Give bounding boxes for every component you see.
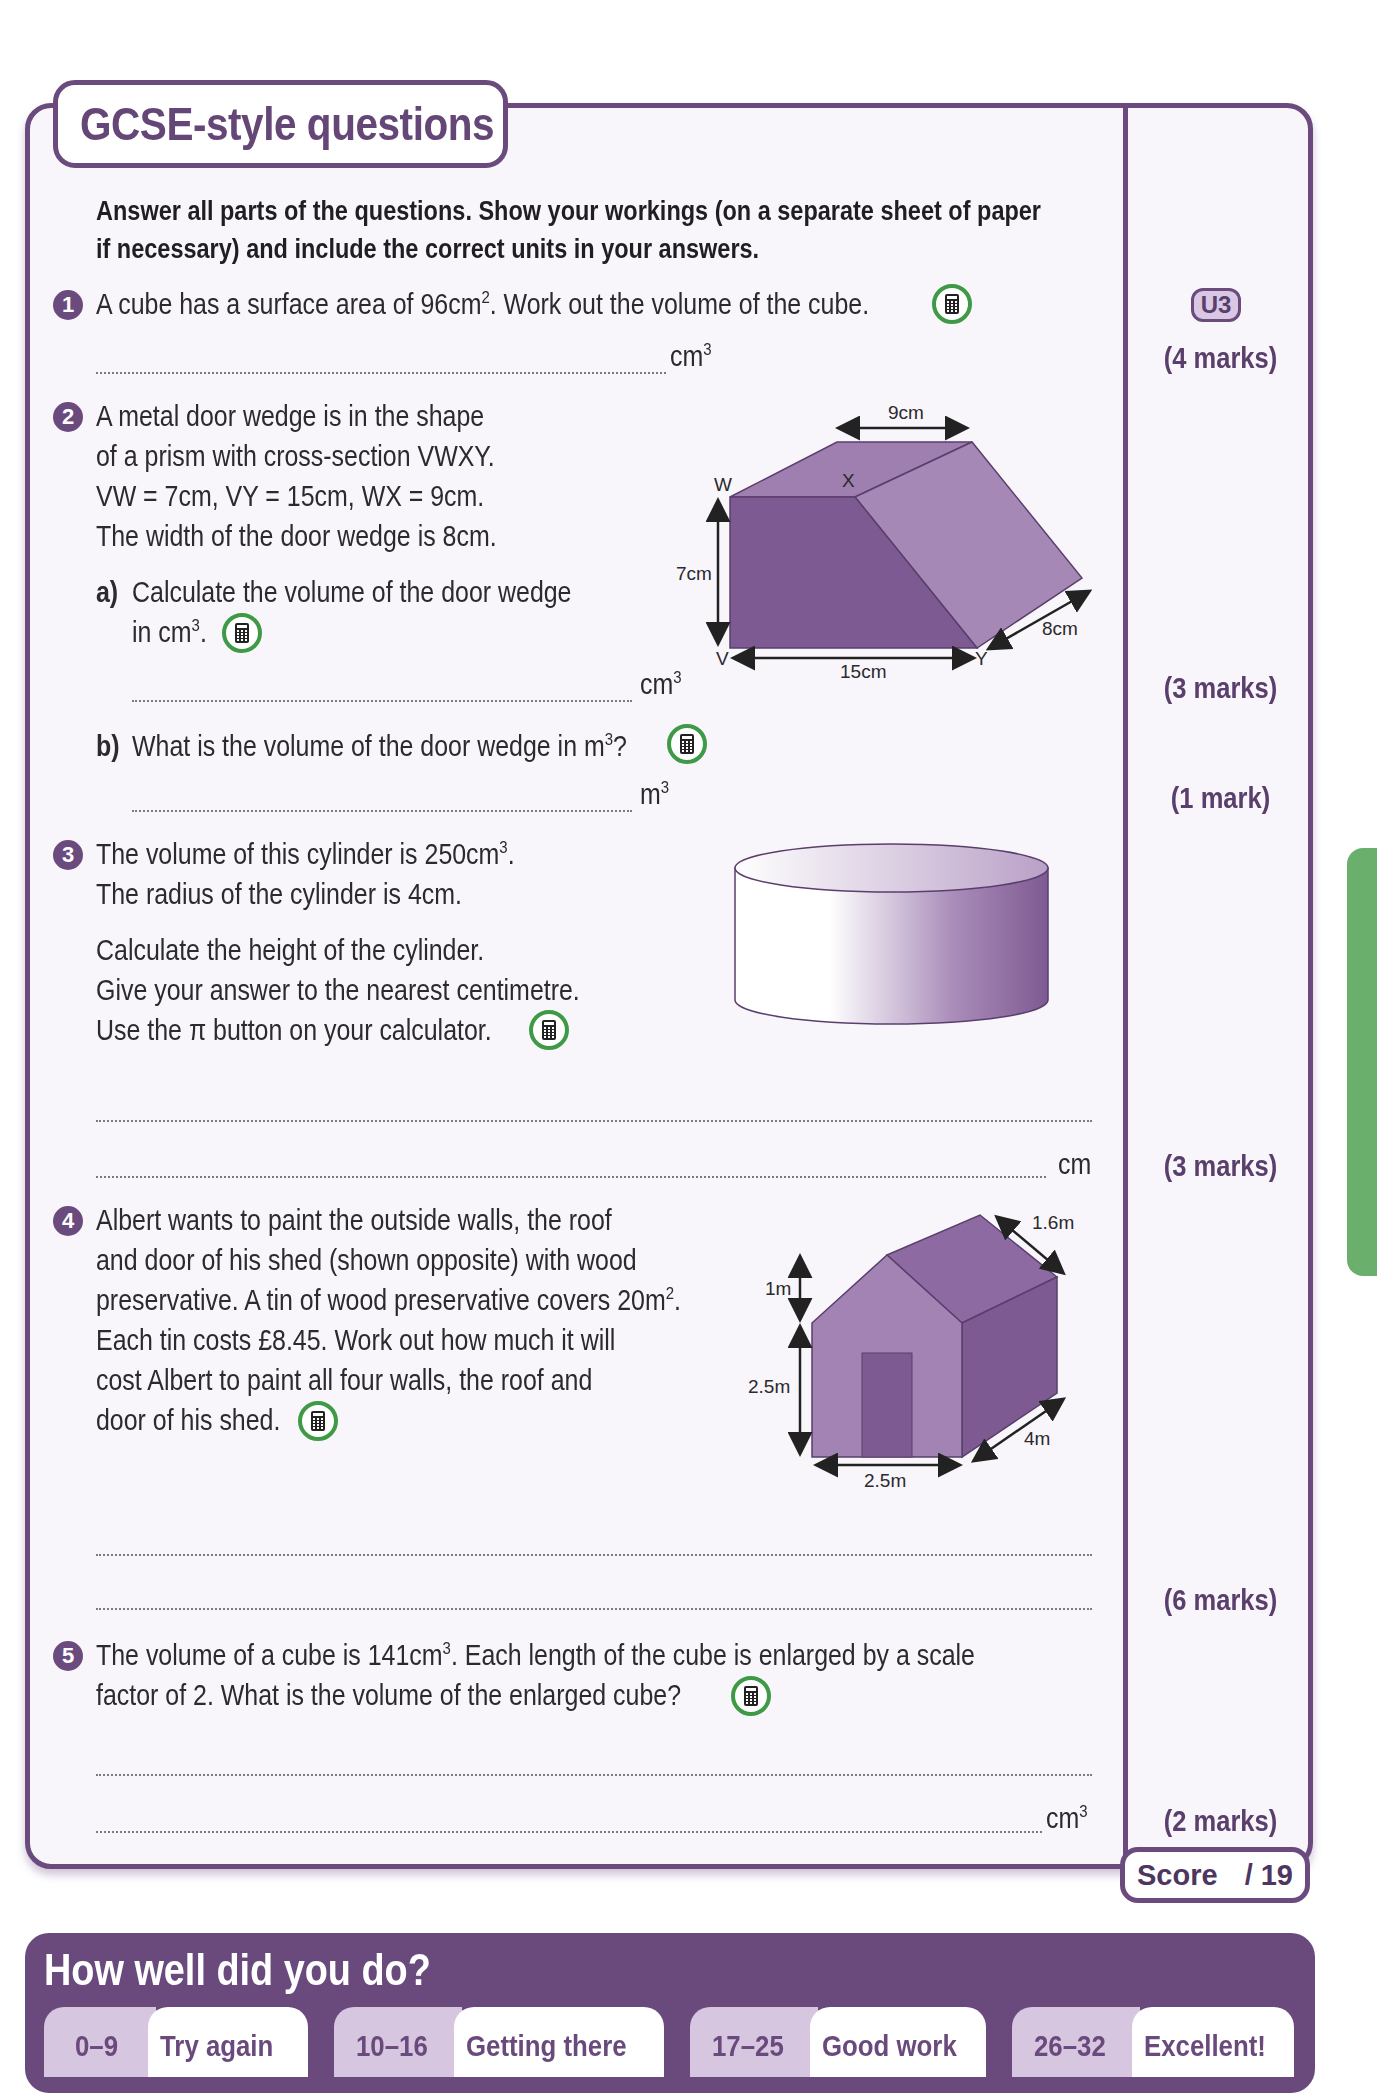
marks-q2a: (3 marks): [1139, 672, 1302, 705]
score-band-label: Getting there: [454, 2007, 664, 2077]
question-2-line-4: The width of the door wedge is 8cm.: [96, 516, 497, 556]
score-band-3: 17–25 Good work: [690, 2007, 986, 2077]
answer-line-q5[interactable]: [96, 1831, 1042, 1833]
dim-label-base: 15cm: [840, 661, 886, 683]
score-band-range: 0–9: [44, 2007, 156, 2077]
dim-label-top: 9cm: [888, 402, 924, 424]
score-label: Score: [1137, 1859, 1218, 1892]
question-4-line-6: door of his shed.: [96, 1400, 280, 1440]
working-line-q3[interactable]: [96, 1120, 1092, 1122]
score-band-range: 17–25: [690, 2007, 818, 2077]
dim-label-roof-height: 1m: [765, 1278, 791, 1300]
score-band-4: 26–32 Excellent!: [1012, 2007, 1294, 2077]
answer-line-q2b[interactable]: [132, 810, 632, 812]
answer-unit-q1: cm3: [670, 340, 712, 373]
score-band-range: 26–32: [1012, 2007, 1140, 2077]
dim-label-roof-slope: 1.6m: [1032, 1212, 1074, 1234]
shed-diagram: [740, 1200, 1100, 1510]
question-3-line-3: Calculate the height of the cylinder.: [96, 930, 484, 970]
marks-column-divider: [1123, 103, 1128, 1869]
question-number-badge-1: 1: [53, 290, 83, 320]
part-a-line-2: in cm3.: [132, 612, 207, 652]
instructions-line-1: Answer all parts of the questions. Show …: [96, 196, 1041, 227]
question-3-line-5: Use the π button on your calculator.: [96, 1010, 492, 1050]
score-box[interactable]: Score / 19: [1120, 1847, 1310, 1903]
dim-label-depth: 8cm: [1042, 618, 1078, 640]
part-a-label: a): [96, 572, 118, 612]
question-4-line-4: Each tin costs £8.45. Work out how much …: [96, 1320, 615, 1360]
score-band-label: Good work: [810, 2007, 986, 2077]
question-3-line-4: Give your answer to the nearest centimet…: [96, 970, 580, 1010]
answer-unit-q3: cm: [1058, 1148, 1091, 1181]
part-b-line-1: What is the volume of the door wedge in …: [132, 726, 627, 766]
vertex-label-w: W: [714, 474, 732, 496]
self-assessment-title: How well did you do?: [44, 1945, 431, 1995]
marks-q4: (6 marks): [1139, 1584, 1302, 1617]
question-number-badge-3: 3: [53, 840, 83, 870]
calculator-icon: [222, 613, 262, 653]
question-4-line-3: preservative. A tin of wood preservative…: [96, 1280, 681, 1320]
working-line-q5[interactable]: [96, 1774, 1092, 1776]
dim-label-width: 2.5m: [864, 1470, 906, 1492]
score-band-1: 0–9 Try again: [44, 2007, 308, 2077]
answer-line-q3[interactable]: [96, 1176, 1046, 1178]
question-3-line-1: The volume of this cylinder is 250cm3.: [96, 834, 515, 874]
score-total: / 19: [1245, 1859, 1293, 1892]
question-4-line-2: and door of his shed (shown opposite) wi…: [96, 1240, 637, 1280]
question-3-line-2: The radius of the cylinder is 4cm.: [96, 874, 462, 914]
dim-label-height: 7cm: [676, 563, 712, 585]
question-5-line-2: factor of 2. What is the volume of the e…: [96, 1675, 681, 1715]
answer-line-q2a[interactable]: [132, 700, 632, 702]
calculator-icon: [731, 1676, 771, 1716]
marks-q5: (2 marks): [1139, 1805, 1302, 1838]
score-band-label: Try again: [148, 2007, 308, 2077]
answer-unit-q2b: m3: [640, 778, 669, 811]
answer-unit-q5: cm3: [1046, 1802, 1088, 1835]
instructions-line-2: if necessary) and include the correct un…: [96, 234, 759, 265]
question-2-line-3: VW = 7cm, VY = 15cm, WX = 9cm.: [96, 476, 484, 516]
dim-label-length: 4m: [1024, 1428, 1050, 1450]
section-title-tab: GCSE-style questions: [53, 80, 508, 168]
score-band-2: 10–16 Getting there: [334, 2007, 664, 2077]
question-4-line-5: cost Albert to paint all four walls, the…: [96, 1360, 592, 1400]
question-number-badge-5: 5: [53, 1641, 83, 1671]
vertex-label-x: X: [842, 470, 855, 492]
question-1-text: A cube has a surface area of 96cm2. Work…: [96, 284, 869, 324]
vertex-label-y: Y: [975, 648, 988, 670]
section-side-tab: [1347, 848, 1377, 1276]
marks-q2b: (1 mark): [1139, 782, 1302, 815]
answer-line-q1[interactable]: [96, 372, 666, 374]
vertex-label-v: V: [716, 648, 729, 670]
question-number-badge-4: 4: [53, 1206, 83, 1236]
part-a-line-1: Calculate the volume of the door wedge: [132, 572, 572, 612]
marks-q1: (4 marks): [1139, 342, 1302, 375]
question-2-line-2: of a prism with cross-section VWXY.: [96, 436, 495, 476]
cylinder-diagram: [725, 835, 1065, 1035]
answer-line-q4[interactable]: [96, 1608, 1092, 1610]
calculator-icon: [298, 1401, 338, 1441]
page-title: GCSE-style questions: [80, 97, 494, 151]
score-band-label: Excellent!: [1132, 2007, 1294, 2077]
question-2-line-1: A metal door wedge is in the shape: [96, 396, 484, 436]
question-4-line-1: Albert wants to paint the outside walls,…: [96, 1200, 612, 1240]
calculator-icon: [667, 724, 707, 764]
prism-diagram: [660, 390, 1120, 690]
part-b-label: b): [96, 726, 120, 766]
score-band-range: 10–16: [334, 2007, 462, 2077]
question-5-line-1: The volume of a cube is 141cm3. Each len…: [96, 1635, 975, 1675]
calculator-icon: [529, 1010, 569, 1050]
working-line-q4[interactable]: [96, 1554, 1092, 1556]
calculator-icon: [932, 284, 972, 324]
marks-q3: (3 marks): [1139, 1150, 1302, 1183]
unit-badge: U3: [1191, 288, 1241, 322]
dim-label-wall-height: 2.5m: [748, 1376, 790, 1398]
question-number-badge-2: 2: [53, 402, 83, 432]
